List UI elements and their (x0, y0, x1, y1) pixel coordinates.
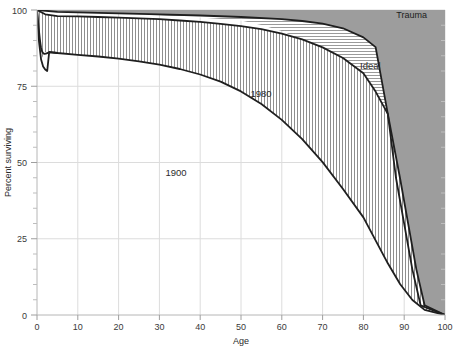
y-tick-label-50: 50 (17, 158, 27, 168)
y-tick-label-25: 25 (17, 234, 27, 244)
x-axis-title: Age (233, 336, 249, 346)
x-tick-label-100: 100 (437, 322, 452, 332)
y-tick-label-0: 0 (22, 311, 27, 321)
x-tick-label-50: 50 (236, 322, 246, 332)
y-tick-label-100: 100 (12, 6, 27, 16)
x-tick-label-0: 0 (34, 322, 39, 332)
annotation-1900: 1900 (165, 167, 186, 178)
x-tick-label-10: 10 (73, 322, 83, 332)
x-tick-label-40: 40 (195, 322, 205, 332)
x-tick-label-20: 20 (114, 322, 124, 332)
y-axis-title: Percent surviving (3, 128, 13, 197)
x-tick-label-60: 60 (277, 322, 287, 332)
y-tick-label-75: 75 (17, 82, 27, 92)
x-tick-label-30: 30 (154, 322, 164, 332)
survival-curve-chart: 0 25 50 75 100 0 10 20 30 40 50 60 70 80… (0, 0, 458, 348)
x-tick-label-70: 70 (318, 322, 328, 332)
annotation-trauma: Trauma (396, 10, 427, 20)
x-tick-label-90: 90 (399, 322, 409, 332)
x-tick-label-80: 80 (358, 322, 368, 332)
annotation-1980: 1980 (250, 88, 271, 99)
annotation-ideal: Ideal (360, 60, 381, 71)
chart-root: 0 25 50 75 100 0 10 20 30 40 50 60 70 80… (0, 0, 458, 348)
